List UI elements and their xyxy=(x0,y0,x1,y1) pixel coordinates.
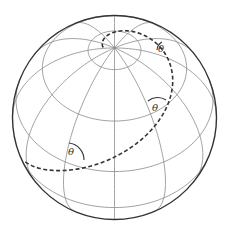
graticule xyxy=(13,16,217,220)
theta-label: θ xyxy=(68,146,74,157)
theta-label: θ xyxy=(158,43,164,54)
globe-diagram: θ θ θ xyxy=(0,0,228,234)
angle-mark-lower: θ xyxy=(68,143,84,160)
grid-line xyxy=(115,48,166,211)
grid-line xyxy=(64,48,115,211)
grid-line xyxy=(115,23,154,48)
angle-mark-upper: θ xyxy=(157,42,164,54)
theta-label: θ xyxy=(152,102,158,113)
angle-mark-middle: θ xyxy=(148,97,166,113)
